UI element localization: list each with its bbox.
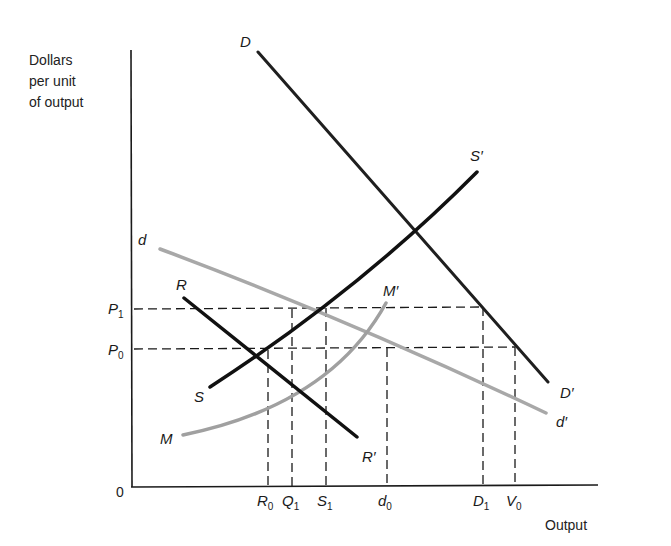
label-d-market-start: D: [240, 33, 251, 50]
diagram-canvas: 0 Output D D′ S S′ d d′ R R′ M M′ P1 P0 …: [0, 0, 671, 546]
label-d-market-end: D′: [560, 384, 575, 401]
price-label-p0: P0: [108, 341, 124, 361]
qty-label-r0: R0: [257, 492, 274, 512]
label-r-start: R: [176, 276, 187, 293]
label-s-end: S′: [470, 147, 484, 164]
qty-label-v0: V0: [506, 492, 522, 512]
curve-s: [210, 172, 477, 387]
x-axis: [131, 485, 598, 487]
price-label-p1: P1: [108, 300, 124, 320]
p0-dashed-line: [134, 347, 515, 349]
label-m-end: M′: [383, 282, 399, 299]
label-r-end: R′: [362, 448, 377, 465]
curve-d-market: [258, 52, 548, 382]
x-axis-label: Output: [545, 517, 587, 533]
qty-label-d1: D1: [473, 492, 490, 512]
label-s-start: S: [194, 388, 204, 405]
curve-d-small: [160, 249, 546, 413]
reference-lines: [134, 307, 515, 486]
origin-label: 0: [116, 484, 124, 500]
label-d-small-end: d′: [556, 413, 568, 430]
label-m-start: M: [160, 430, 173, 447]
qty-label-d0: d0: [378, 492, 392, 512]
qty-label-q1: Q1: [282, 492, 300, 512]
label-d-small-start: d: [138, 231, 147, 248]
qty-label-s1: S1: [317, 492, 333, 512]
y-axis: [131, 50, 132, 487]
